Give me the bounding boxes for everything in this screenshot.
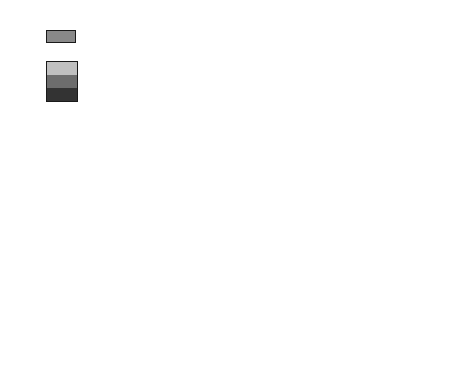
legend-item-collective-security bbox=[46, 30, 84, 43]
legend-swatch-income-subsidies bbox=[47, 88, 77, 101]
legend-swatch-collective-security bbox=[46, 30, 76, 43]
plot-canvas bbox=[0, 0, 461, 368]
legend-spacer bbox=[46, 43, 84, 52]
legend-swatch-private-producers bbox=[47, 75, 77, 88]
chart-root bbox=[0, 0, 461, 368]
chart-legend bbox=[46, 30, 84, 52]
legend-swatch-government-agencies bbox=[47, 62, 77, 75]
legend-swatch-stack bbox=[46, 61, 78, 102]
